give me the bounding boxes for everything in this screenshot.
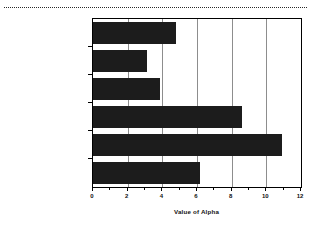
x-axis-tick-minor [213,187,214,190]
x-axis-tick-major [300,187,301,191]
x-axis-tick-minor [179,187,180,190]
y-axis-tick [88,102,93,103]
bar [93,78,160,100]
x-axis-tick-minor [144,187,145,190]
x-axis-tick-label: 12 [285,193,311,199]
bar-row [93,47,301,75]
top-dotted-rule [4,7,307,8]
x-axis-tick-major [196,187,197,191]
x-axis-title: Value of Alpha [92,208,301,215]
plot-area [92,18,302,188]
bar-row [93,75,301,103]
x-axis-tick-major [161,187,162,191]
bar-row [93,131,301,159]
x-axis-tick-minor [109,187,110,190]
x-axis-tick-label: 4 [146,193,176,199]
y-axis-tick [88,46,93,47]
bar [93,162,200,184]
bar-row [93,103,301,131]
x-axis-tick-minor [283,187,284,190]
bar-row [93,159,301,187]
y-axis-tick [88,158,93,159]
y-axis-tick [88,74,93,75]
x-axis-tick-major [127,187,128,191]
x-axis-tick-label: 2 [112,193,142,199]
x-axis-tick-major [92,187,93,191]
bar [93,22,176,44]
x-axis-tick-major [231,187,232,191]
bar [93,106,242,128]
bar [93,134,282,156]
bar-series [93,19,301,187]
x-axis-tick-label: 6 [181,193,211,199]
bar [93,50,147,72]
y-axis-tick [88,130,93,131]
bar-row [93,19,301,47]
x-axis-tick-label: 10 [250,193,280,199]
x-axis-tick-label: 8 [216,193,246,199]
x-axis-tick-minor [248,187,249,190]
chart-figure: 4A. Stream (logged)200m4B. Overlook (und… [0,0,311,233]
x-axis-tick-label: 0 [77,193,107,199]
x-axis-tick-major [265,187,266,191]
